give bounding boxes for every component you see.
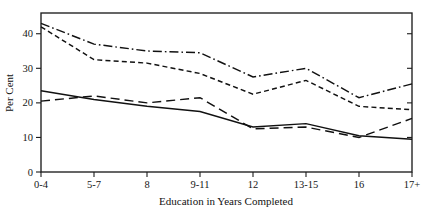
series-group [41, 23, 412, 139]
y-axis-title: Per Cent [3, 74, 15, 112]
x-tick-label: 12 [248, 179, 259, 190]
chart-figure: 010203040 0-45-789-111213-151617+ Per Ce… [0, 0, 438, 217]
x-axis-title: Education in Years Completed [159, 195, 293, 207]
x-tick-label: 0-4 [34, 179, 49, 190]
plot-frame [41, 13, 412, 172]
x-tick-label: 17+ [404, 179, 421, 190]
x-axis-ticks: 0-45-789-111213-151617+ [34, 172, 420, 190]
y-tick-label: 40 [23, 28, 34, 39]
x-tick-label: 5-7 [87, 179, 101, 190]
x-tick-label: 13-15 [294, 179, 319, 190]
y-axis-ticks: 010203040 [23, 28, 42, 177]
y-tick-label: 20 [23, 97, 34, 108]
data-series-line [41, 23, 412, 97]
x-tick-label: 16 [354, 179, 365, 190]
y-tick-label: 10 [23, 132, 34, 143]
data-series-line [41, 27, 412, 110]
x-tick-label: 8 [144, 179, 149, 190]
y-tick-label: 30 [23, 63, 34, 74]
y-tick-label: 0 [28, 167, 33, 178]
line-chart: 010203040 0-45-789-111213-151617+ Per Ce… [0, 0, 438, 217]
x-tick-label: 9-11 [191, 179, 210, 190]
data-series-line [41, 91, 412, 139]
data-series-line [41, 96, 412, 137]
